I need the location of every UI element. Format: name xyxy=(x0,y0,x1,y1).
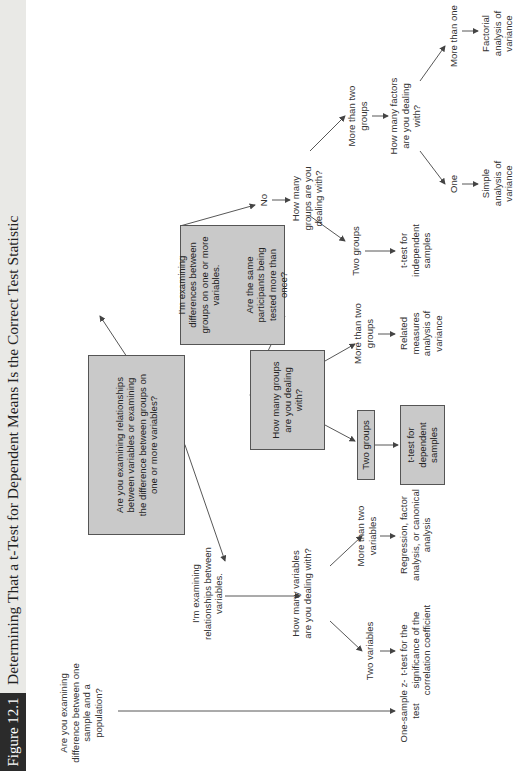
node-two-groups-independent: Two groups xyxy=(350,216,362,286)
node-more-than-two-groups-independent: More than two groups xyxy=(346,76,369,156)
node-regression-analysis: Regression, factor analysis, or canonica… xyxy=(398,489,433,581)
node-related-measures-anova: Related measures analysis of variance xyxy=(398,296,444,371)
flowchart-page: Figure 12.1 Determining That a t-Test fo… xyxy=(0,0,526,771)
node-one-factor: One xyxy=(448,169,460,199)
node-root-question: Are you examining relationships between … xyxy=(88,355,185,535)
node-examining-relationships: I'm examining relationships between vari… xyxy=(190,546,225,641)
same-participants-question: Are the same participants being tested m… xyxy=(244,236,290,334)
node-factorial-anova: Factorial analysis of variance xyxy=(480,1,515,66)
node-more-than-two-groups-dependent: More than two groups xyxy=(352,296,375,371)
node-two-groups-dependent: Two groups xyxy=(357,410,375,480)
node-how-many-factors: How many factors are you dealing with? xyxy=(388,76,423,156)
node-two-variables: Two variables xyxy=(364,611,376,691)
node-how-many-variables: How many variables are you dealing with? xyxy=(290,546,313,641)
node-t-test-correlation: t-test for the significance of the corre… xyxy=(398,604,433,696)
differences-statement: I'm examining differences between groups… xyxy=(176,236,222,334)
node-simple-anova: Simple analysis of variance xyxy=(480,151,515,216)
node-how-many-groups-dependent: How many groups are you dealing with? xyxy=(250,350,325,450)
node-more-than-two-variables: More than two variables xyxy=(355,496,378,576)
node-one-sample-question: Are you examining difference between one… xyxy=(58,663,104,763)
node-how-many-groups-independent: How many groups are you dealing with? xyxy=(290,161,325,236)
node-t-test-independent: t-test for independent samples xyxy=(398,208,433,293)
node-no: No xyxy=(258,189,270,211)
t-test-correlation-label: t-test for the significance of the corre… xyxy=(398,605,432,695)
node-examining-differences: I'm examining differences between groups… xyxy=(180,225,285,345)
node-t-test-dependent: t-test for dependent samples xyxy=(400,405,445,485)
node-more-than-one-factor: More than one xyxy=(448,1,460,71)
